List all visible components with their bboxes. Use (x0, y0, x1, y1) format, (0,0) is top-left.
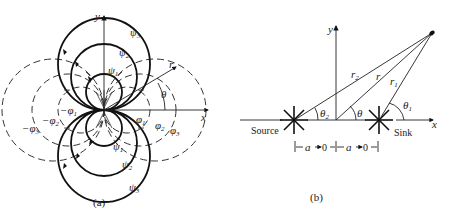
sink-icon (365, 106, 393, 134)
psi3-lower-label: ψ3 (129, 181, 140, 195)
theta2-arc (315, 108, 318, 120)
panel-a-x-label: x (200, 111, 206, 123)
phi3-right-label: φ3 (170, 124, 180, 138)
dim-right-a: a (346, 141, 352, 153)
source-icon (280, 106, 308, 134)
panel-a-theta-label: θ (161, 88, 167, 100)
panel-a-r-label: r (169, 58, 174, 70)
phi2-left-label: −φ2 (42, 114, 60, 128)
theta-arc (350, 106, 356, 120)
dim-left-zero: 0 (322, 142, 327, 153)
phi2-right-label: φ2 (155, 119, 165, 133)
panel-b-caption: (b) (310, 191, 323, 204)
psi3-lower-arrow (63, 163, 67, 169)
panel-a-doublet-flow: y x r θ ψ3 ψ2 ψ1 ψ1 ψ2 ψ3 φ1 φ2 φ3 −φ1 −… (2, 10, 208, 209)
psi3-upper-label: ψ3 (130, 26, 141, 40)
phi3-left-label: −φ3 (22, 122, 40, 136)
dim-left-a: a (305, 141, 311, 153)
psi3-upper-arrow (63, 49, 67, 55)
phi1-left-label: −φ1 (60, 104, 77, 118)
r1-label: r1 (390, 75, 398, 89)
panel-a-caption: (a) (93, 196, 106, 209)
panel-b-x-label: x (431, 118, 437, 130)
panel-b-y-label: y (327, 23, 333, 35)
psi1-lower-label: ψ1 (113, 140, 123, 154)
dim-right-zero: 0 (363, 142, 368, 153)
phi1-right-label: φ1 (136, 113, 146, 127)
panel-a-y-label: y (94, 10, 100, 22)
figure-canvas: y x r θ ψ3 ψ2 ψ1 ψ1 ψ2 ψ3 φ1 φ2 φ3 −φ1 −… (0, 0, 459, 216)
theta-label: θ (357, 107, 363, 119)
sink-label: Sink (394, 127, 412, 138)
panel-b-source-sink: y x r2 r r1 θ2 θ θ1 Source S (240, 23, 437, 204)
psi2-upper-label: ψ2 (119, 46, 130, 60)
source-label: Source (251, 125, 279, 136)
theta1-label: θ1 (403, 99, 412, 113)
theta2-label: θ2 (320, 107, 329, 121)
dimension-markers: a 0 a 0 (295, 141, 378, 153)
r2-label: r2 (351, 68, 359, 82)
r-label: r (376, 70, 381, 82)
psi1-upper-label: ψ1 (108, 64, 118, 78)
psi2-lower-arrow (76, 153, 80, 159)
theta1-arc (389, 103, 404, 120)
